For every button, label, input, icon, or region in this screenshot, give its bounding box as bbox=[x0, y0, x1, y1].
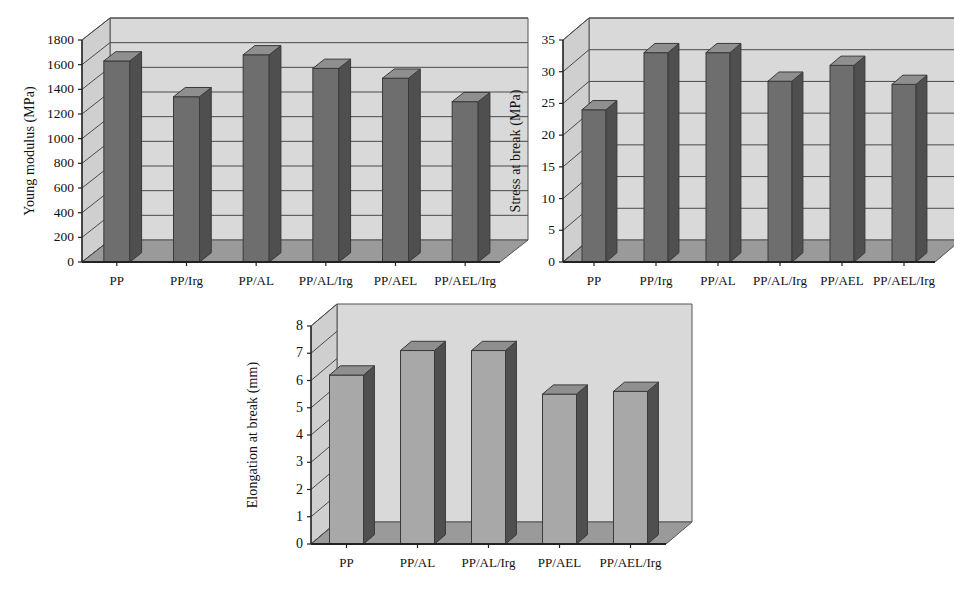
x-axis-tick-label: PP/AEL/Irg bbox=[873, 274, 935, 287]
y-axis-title: Stress at break (MPa) bbox=[507, 89, 523, 212]
chart-young-modulus: 020040060080010001200140016001800Young m… bbox=[20, 22, 520, 307]
x-axis-tick-label: PP/AEL/Irg bbox=[600, 556, 662, 569]
bar bbox=[830, 56, 865, 262]
bar bbox=[706, 43, 741, 262]
bar bbox=[614, 382, 659, 544]
x-axis-tick-label: PP/Irg bbox=[640, 274, 673, 287]
bar bbox=[383, 69, 421, 262]
x-axis-tick-label: PP/AL/Irg bbox=[753, 274, 807, 287]
bar bbox=[330, 366, 375, 544]
bar bbox=[472, 341, 517, 544]
bar bbox=[452, 92, 490, 262]
chart-canvas bbox=[20, 22, 520, 307]
bar bbox=[768, 72, 803, 262]
bar bbox=[243, 46, 281, 262]
y-axis-tick-label: 0 bbox=[235, 537, 303, 551]
x-axis-tick-label: PP/AEL bbox=[820, 274, 863, 287]
y-axis-tick-label: 1800 bbox=[20, 33, 74, 47]
bar bbox=[644, 43, 679, 262]
y-axis-tick-label: 1 bbox=[235, 510, 303, 524]
y-axis-tick-label: 0 bbox=[20, 255, 74, 269]
x-axis-tick-label: PP/AL bbox=[700, 274, 735, 287]
bar bbox=[104, 52, 142, 262]
y-axis-tick-label: 200 bbox=[20, 231, 74, 245]
chart-elongation-at-break: 012345678Elongation at break (mm)PPPP/AL… bbox=[235, 312, 690, 592]
y-axis-tick-label: 0 bbox=[505, 255, 555, 269]
x-axis-tick-label: PP/AEL bbox=[374, 274, 417, 287]
bar bbox=[582, 101, 617, 262]
x-axis-tick-label: PP/AL bbox=[238, 274, 273, 287]
y-axis-title: Elongation at break (mm) bbox=[245, 362, 261, 509]
y-axis-tick-label: 30 bbox=[505, 65, 555, 79]
x-axis-tick-label: PP/AL/Irg bbox=[462, 556, 516, 569]
chart-canvas bbox=[505, 22, 950, 307]
chart-stress-at-break: 05101520253035Stress at break (MPa)PPPP/… bbox=[505, 22, 950, 307]
bar bbox=[174, 87, 212, 262]
bar bbox=[401, 341, 446, 544]
bar bbox=[892, 75, 927, 262]
y-axis-tick-label: 5 bbox=[505, 224, 555, 238]
y-axis-title: Young modulus (MPa) bbox=[22, 86, 38, 216]
x-axis-tick-label: PP/AEL/Irg bbox=[434, 274, 496, 287]
x-axis-tick-label: PP bbox=[110, 274, 124, 287]
y-axis-tick-label: 7 bbox=[235, 346, 303, 360]
x-axis-tick-label: PP bbox=[339, 556, 353, 569]
x-axis-tick-label: PP/AL bbox=[400, 556, 435, 569]
x-axis-tick-label: PP/AEL bbox=[538, 556, 581, 569]
chart-canvas bbox=[235, 312, 690, 592]
y-axis-tick-label: 35 bbox=[505, 33, 555, 47]
bar bbox=[313, 59, 351, 262]
bar bbox=[543, 385, 588, 544]
x-axis-tick-label: PP/Irg bbox=[170, 274, 203, 287]
y-axis-tick-label: 1600 bbox=[20, 58, 74, 72]
y-axis-tick-label: 8 bbox=[235, 319, 303, 333]
x-axis-tick-label: PP/AL/Irg bbox=[299, 274, 353, 287]
x-axis-tick-label: PP bbox=[587, 274, 601, 287]
